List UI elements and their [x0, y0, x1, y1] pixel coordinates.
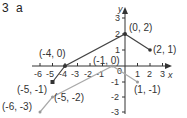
point-icon — [148, 48, 152, 52]
label-2-1: (2, 1) — [153, 44, 176, 55]
svg-text:-3: -3 — [71, 69, 79, 79]
question-number: 3 — [2, 1, 9, 15]
svg-text:3: 3 — [160, 69, 165, 79]
label-m6-m3: (-6, -3) — [2, 101, 32, 112]
point-icon — [63, 64, 67, 68]
point-icon — [123, 32, 127, 36]
point-icon — [39, 111, 42, 114]
point-icon — [51, 80, 55, 84]
svg-text:3: 3 — [115, 13, 120, 23]
svg-text:-3: -3 — [111, 107, 119, 117]
label-m5-m2: (-5, -2) — [54, 92, 84, 103]
svg-text:-5: -5 — [46, 69, 54, 79]
y-axis-arrow-icon — [122, 7, 128, 14]
label-m4-0: (-4, 0) — [39, 48, 66, 59]
x-axis-label: x — [167, 70, 173, 80]
question-part: a — [16, 1, 23, 15]
x-tick-labels: -6 -5 -4 -3 -2 -1 1 2 3 — [34, 69, 165, 79]
label-m1-0: (-1, 0) — [93, 55, 120, 66]
svg-text:1: 1 — [115, 45, 120, 55]
svg-text:-1: -1 — [111, 77, 119, 87]
x-axis-arrow-icon — [165, 63, 172, 69]
point-labels: (-4, 0) (0, 2) (2, 1) (-1, 0) (-5, -1) (… — [2, 22, 176, 112]
svg-text:1: 1 — [135, 69, 140, 79]
svg-text:2: 2 — [147, 69, 152, 79]
label-1-m1: (1, -1) — [134, 84, 161, 95]
label-m5-m1: (-5, -1) — [17, 84, 47, 95]
label-0-2: (0, 2) — [129, 22, 152, 33]
svg-text:-6: -6 — [34, 69, 42, 79]
svg-text:-2: -2 — [111, 92, 119, 102]
svg-text:-4: -4 — [59, 69, 67, 79]
coordinate-graph: 3 a x y -6 -5 -4 -3 -2 -1 1 2 3 0 3 2 1 … — [0, 0, 187, 118]
